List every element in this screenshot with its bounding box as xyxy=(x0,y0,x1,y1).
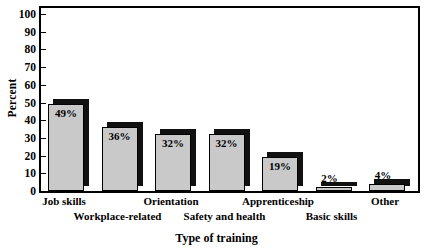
bar-value-label: 49% xyxy=(48,107,84,119)
y-tick-mark xyxy=(41,138,46,139)
bar-value-label: 36% xyxy=(102,130,138,142)
bar-value-label: 2% xyxy=(312,172,348,184)
y-tick-label: 20 xyxy=(2,150,36,162)
bar[interactable]: 2% xyxy=(316,187,352,191)
y-tick-mark xyxy=(41,156,46,157)
y-tick-label: 50 xyxy=(2,97,36,109)
y-tick-label: 30 xyxy=(2,132,36,144)
bar-value-label: 32% xyxy=(155,137,191,149)
bar-front-face xyxy=(369,184,405,191)
y-tick-mark xyxy=(41,85,46,86)
y-tick-mark xyxy=(41,49,46,50)
x-axis-category-labels: Job skillsWorkplace-relatedOrientationSa… xyxy=(39,195,420,229)
y-tick-mark xyxy=(41,67,46,68)
plot-area: 49%36%32%32%19%2%4% xyxy=(39,6,420,193)
y-tick-label: 90 xyxy=(2,26,36,38)
y-tick-label: 0 xyxy=(2,185,36,197)
x-category-label: Other xyxy=(371,195,399,207)
bar-series: 49%36%32%32%19%2%4% xyxy=(41,8,418,191)
y-tick-label: 10 xyxy=(2,167,36,179)
y-tick-mark xyxy=(41,14,46,15)
bar-chart-figure: Percent 0102030405060708090100 49%36%32%… xyxy=(0,0,433,248)
bar[interactable]: 32% xyxy=(209,134,245,191)
x-category-label: Workplace-related xyxy=(74,210,162,222)
bar[interactable]: 19% xyxy=(262,157,298,191)
x-category-label: Apprenticeship xyxy=(242,195,314,207)
x-category-label: Job skills xyxy=(42,195,86,207)
y-tick-mark xyxy=(41,191,46,192)
x-category-label: Safety and health xyxy=(184,210,266,222)
bar[interactable]: 49% xyxy=(48,104,84,191)
y-tick-mark xyxy=(41,120,46,121)
y-tick-label: 100 xyxy=(2,8,36,20)
y-tick-label: 80 xyxy=(2,43,36,55)
bar-value-label: 32% xyxy=(209,137,245,149)
bar[interactable]: 36% xyxy=(102,127,138,191)
y-tick-mark xyxy=(41,173,46,174)
x-category-label: Basic skills xyxy=(306,210,358,222)
bar-value-label: 19% xyxy=(262,160,298,172)
y-tick-label: 70 xyxy=(2,61,36,73)
y-axis-tick-labels: 0102030405060708090100 xyxy=(0,0,36,248)
y-tick-mark xyxy=(41,32,46,33)
bar-front-face xyxy=(316,187,352,191)
bar[interactable]: 32% xyxy=(155,134,191,191)
y-tick-label: 60 xyxy=(2,79,36,91)
y-tick-mark xyxy=(41,103,46,104)
bar-value-label: 4% xyxy=(365,169,401,181)
x-category-label: Orientation xyxy=(144,195,199,207)
bar[interactable]: 4% xyxy=(369,184,405,191)
x-axis-title: Type of training xyxy=(0,231,433,246)
y-tick-label: 40 xyxy=(2,114,36,126)
